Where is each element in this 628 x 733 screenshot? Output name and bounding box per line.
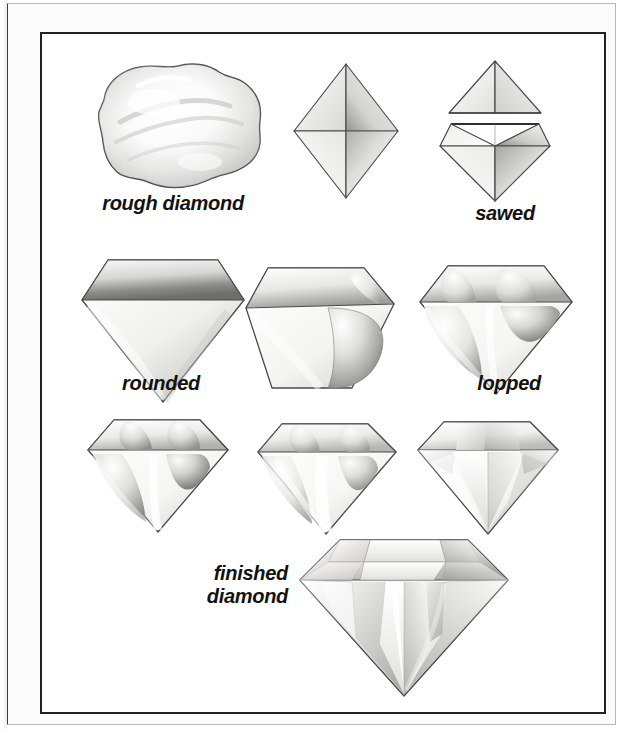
- rough-diamond-illustration: [80, 56, 272, 192]
- inner-frame-border: rough diamond sawed rounded lopped finis…: [40, 32, 606, 714]
- artwork-canvas: rough diamond sawed rounded lopped finis…: [42, 34, 604, 712]
- label-sawed: sawed: [420, 202, 590, 225]
- cleaved-octahedron-illustration: [290, 60, 402, 202]
- girdled-diamond-illustration: [242, 264, 402, 400]
- sawed-diamond-illustration: [436, 58, 554, 204]
- brillianteered-step-3-illustration: [412, 418, 564, 540]
- label-rounded: rounded: [66, 372, 256, 395]
- finished-diamond-illustration: [294, 534, 514, 704]
- diamond-cutting-figure: rough diamond sawed rounded lopped finis…: [0, 0, 628, 733]
- label-rough-diamond: rough diamond: [68, 192, 278, 215]
- brillianteered-step-1-illustration: [82, 416, 234, 538]
- outer-frame-border: rough diamond sawed rounded lopped finis…: [6, 3, 616, 725]
- brillianteered-step-2-illustration: [252, 420, 402, 540]
- label-finished-diamond: finished diamond: [138, 562, 288, 608]
- label-lopped: lopped: [424, 372, 594, 395]
